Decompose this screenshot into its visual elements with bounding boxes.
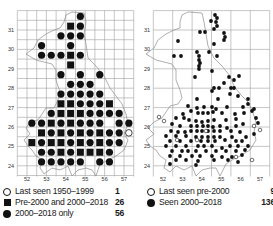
filled-circle-marker bbox=[212, 118, 216, 122]
y-tick-label: 25 bbox=[144, 143, 150, 149]
filled-circle-marker bbox=[106, 149, 113, 156]
y-tick-label: 29 bbox=[8, 66, 14, 72]
filled-circle-marker bbox=[186, 149, 190, 153]
right-map-x-axis: 525354555657 bbox=[160, 176, 263, 182]
filled-circle-marker bbox=[236, 94, 240, 98]
legend-row-last-seen-pre-2000: Last seen pre-2000 9 bbox=[147, 186, 273, 197]
filled-circle-marker bbox=[212, 129, 216, 133]
x-tick-label: 56 bbox=[238, 176, 244, 182]
open-circle-marker bbox=[234, 155, 238, 159]
filled-circle-marker bbox=[194, 163, 198, 167]
filled-circle-marker bbox=[106, 158, 113, 165]
filled-circle-marker bbox=[67, 42, 74, 49]
filled-circle-marker bbox=[217, 86, 221, 90]
filled-square-marker bbox=[77, 110, 84, 117]
filled-circle-marker bbox=[168, 154, 172, 158]
filled-circle-marker bbox=[240, 153, 244, 157]
y-tick-label: 29 bbox=[144, 66, 150, 72]
filled-circle-marker bbox=[178, 154, 182, 158]
y-tick-label: 26 bbox=[144, 124, 150, 130]
legend-label: Seen 2000–2018 bbox=[159, 197, 257, 208]
filled-circle-marker bbox=[237, 74, 241, 78]
x-tick-label: 57 bbox=[121, 176, 127, 182]
filled-square-marker bbox=[67, 61, 74, 68]
filled-circle-marker bbox=[86, 139, 93, 146]
filled-circle-marker bbox=[184, 158, 188, 162]
filled-circle-marker bbox=[200, 135, 204, 139]
filled-circle-marker bbox=[214, 20, 218, 24]
filled-circle-marker bbox=[67, 149, 74, 156]
filled-circle-marker bbox=[218, 135, 222, 139]
filled-circle-marker bbox=[206, 139, 210, 143]
filled-circle-marker bbox=[38, 52, 45, 59]
filled-circle-marker bbox=[176, 39, 180, 43]
filled-square-marker bbox=[57, 129, 64, 136]
open-circle-marker bbox=[250, 158, 254, 162]
y-tick-label: 24 bbox=[8, 163, 14, 169]
filled-circle-marker bbox=[230, 155, 234, 159]
filled-circle-marker bbox=[48, 110, 55, 117]
filled-circle-marker bbox=[196, 159, 200, 163]
y-tick-label: 25 bbox=[8, 143, 14, 149]
filled-circle-marker bbox=[38, 139, 45, 146]
filled-circle-marker bbox=[181, 112, 185, 116]
legend-label: Pre-2000 and 2000–2018 bbox=[15, 197, 115, 208]
filled-circle-marker bbox=[224, 118, 228, 122]
filled-circle-marker bbox=[77, 158, 84, 165]
filled-circle-marker bbox=[210, 144, 214, 148]
filled-circle-icon bbox=[147, 199, 155, 207]
filled-circle-marker bbox=[174, 158, 178, 162]
filled-circle-marker bbox=[57, 90, 64, 97]
filled-circle-marker bbox=[211, 110, 215, 114]
filled-square-marker bbox=[57, 100, 64, 107]
legend-count: 56 bbox=[115, 208, 125, 219]
filled-circle-marker bbox=[236, 160, 240, 164]
filled-circle-marker bbox=[57, 120, 64, 127]
filled-circle-marker bbox=[206, 111, 210, 115]
filled-square-marker bbox=[77, 139, 84, 146]
left-map-grid bbox=[17, 11, 133, 177]
open-circle-marker bbox=[195, 138, 199, 142]
filled-square-marker bbox=[87, 149, 94, 156]
filled-circle-marker bbox=[222, 38, 226, 42]
legend-count: 9 bbox=[257, 186, 273, 197]
y-tick-label: 27 bbox=[144, 105, 150, 111]
filled-circle-marker bbox=[214, 149, 218, 153]
right-map-canvas: 3130292827262524 525354555657 bbox=[136, 0, 273, 186]
filled-circle-marker bbox=[57, 158, 64, 165]
filled-circle-marker bbox=[202, 105, 206, 109]
filled-circle-marker bbox=[169, 129, 173, 133]
y-tick-label: 30 bbox=[144, 46, 150, 52]
filled-circle-marker bbox=[234, 149, 238, 153]
filled-circle-marker bbox=[77, 23, 84, 30]
filled-circle-marker bbox=[38, 149, 45, 156]
y-tick-label: 26 bbox=[8, 124, 14, 130]
left-map-y-axis: 3130292827262524 bbox=[8, 27, 14, 169]
filled-circle-marker bbox=[193, 75, 197, 79]
filled-circle-marker bbox=[106, 110, 113, 117]
filled-circle-marker bbox=[207, 50, 211, 54]
open-circle-marker bbox=[252, 124, 256, 128]
filled-circle-marker bbox=[48, 129, 55, 136]
filled-square-marker bbox=[67, 100, 74, 107]
filled-circle-marker bbox=[246, 144, 250, 148]
filled-circle-marker bbox=[116, 139, 123, 146]
y-tick-label: 31 bbox=[144, 27, 150, 33]
legend-label: Last seen 1950–1999 bbox=[15, 186, 115, 197]
filled-circle-marker bbox=[57, 52, 64, 59]
filled-square-marker bbox=[38, 129, 45, 136]
filled-circle-marker bbox=[216, 97, 220, 101]
filled-circle-marker bbox=[196, 111, 200, 115]
filled-circle-marker bbox=[77, 32, 84, 39]
filled-circle-marker bbox=[206, 135, 210, 139]
filled-circle-marker bbox=[189, 124, 193, 128]
filled-square-marker bbox=[96, 129, 103, 136]
filled-circle-marker bbox=[197, 67, 201, 71]
right-distribution-map: 3130292827262524 525354555657 bbox=[136, 0, 273, 186]
filled-circle-marker bbox=[241, 122, 245, 126]
filled-square-marker bbox=[67, 120, 74, 127]
filled-circle-marker bbox=[194, 119, 198, 123]
filled-square-marker bbox=[67, 52, 74, 59]
filled-square-marker bbox=[77, 129, 84, 136]
filled-circle-marker bbox=[48, 158, 55, 165]
